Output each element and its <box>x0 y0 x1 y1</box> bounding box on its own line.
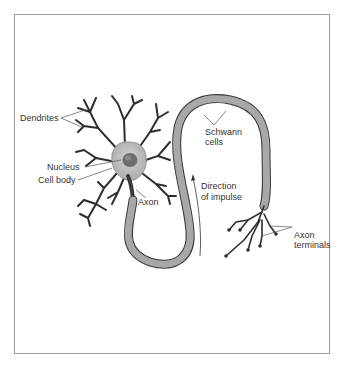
direction-arrow <box>193 178 201 256</box>
label-terminals-1: Axon <box>294 230 315 240</box>
label-nucleus: Nucleus <box>47 162 80 172</box>
label-dendrites: Dendrites <box>20 113 59 123</box>
label-terminals-2: terminals <box>294 240 331 250</box>
label-schwann-2: cells <box>205 137 223 147</box>
label-direction-2: of impulse <box>201 192 242 202</box>
label-axon: Axon <box>138 197 159 207</box>
label-schwann-1: Schwann <box>205 127 242 137</box>
label-direction-1: Direction <box>201 181 237 191</box>
nucleus <box>123 153 138 167</box>
label-cell-body: Cell body <box>38 175 76 185</box>
axon-terminals <box>226 206 276 256</box>
myelinated-axon <box>128 99 266 265</box>
